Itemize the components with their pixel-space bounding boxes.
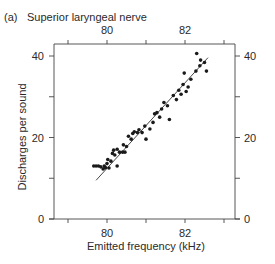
y-axis-label: Discharges per sound	[16, 83, 28, 190]
data-point	[143, 124, 147, 128]
data-point	[106, 158, 110, 162]
data-point	[127, 134, 131, 138]
data-point	[133, 130, 137, 134]
data-point	[205, 69, 209, 73]
data-point	[195, 52, 199, 56]
right-y-tick-label: 20	[244, 132, 256, 144]
data-point	[122, 143, 126, 147]
data-point	[166, 104, 170, 108]
data-point	[184, 90, 188, 94]
data-point	[144, 137, 148, 141]
data-point	[118, 150, 122, 154]
data-point	[175, 98, 179, 102]
y-tick-label: 40	[32, 50, 44, 62]
top-x-tick-label: 82	[179, 24, 191, 36]
data-point	[115, 164, 119, 168]
data-point	[112, 148, 116, 152]
axis-ticks	[49, 40, 240, 223]
panel-title: Superior laryngeal nerve	[27, 11, 147, 23]
data-point	[137, 128, 141, 132]
data-point	[104, 166, 108, 170]
data-point	[105, 162, 109, 166]
data-point	[107, 166, 111, 170]
scatter-chart: (a) Superior laryngeal nerve 80828082020…	[0, 0, 275, 264]
data-point	[113, 153, 117, 157]
data-point	[186, 85, 190, 89]
data-point	[198, 64, 202, 68]
data-points	[92, 52, 208, 171]
data-point	[151, 121, 155, 125]
data-point	[181, 83, 185, 87]
x-tick-label: 82	[179, 227, 191, 239]
right-y-tick-label: 0	[244, 213, 250, 225]
data-point	[199, 58, 203, 62]
regression-line	[96, 58, 208, 181]
x-tick-label: 80	[101, 227, 113, 239]
data-point	[168, 118, 172, 122]
x-axis-label: Emitted frequency (kHz)	[87, 240, 205, 252]
data-point	[123, 150, 127, 154]
data-point	[177, 88, 181, 92]
data-point	[179, 93, 183, 97]
data-point	[194, 69, 198, 73]
data-point	[129, 137, 133, 141]
data-point	[140, 131, 144, 135]
data-point	[172, 94, 176, 98]
right-y-tick-label: 40	[244, 50, 256, 62]
plot-frame	[49, 44, 240, 219]
data-point	[148, 127, 152, 131]
data-point	[203, 61, 207, 65]
y-tick-label: 20	[32, 132, 44, 144]
tick-labels: 808280820204002040	[32, 24, 257, 239]
data-point	[189, 77, 193, 81]
data-point	[160, 107, 164, 111]
data-point	[158, 115, 162, 119]
data-point	[109, 159, 113, 163]
data-point	[115, 148, 119, 152]
data-point	[162, 101, 166, 105]
y-tick-label: 0	[38, 213, 44, 225]
panel-letter: (a)	[4, 11, 17, 23]
top-x-tick-label: 80	[101, 24, 113, 36]
data-point	[155, 111, 159, 115]
data-point	[125, 145, 129, 149]
data-point	[182, 71, 186, 75]
